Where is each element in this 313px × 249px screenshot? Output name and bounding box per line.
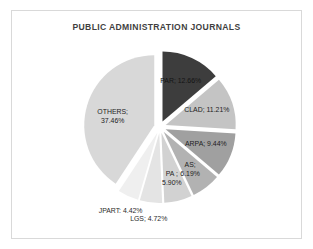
chart-figure: PUBLIC ADMINISTRATION JOURNALS PAR; 12.6… [0, 0, 313, 249]
pie-slices-graphic [12, 11, 303, 240]
pie-chart: PAR; 12.66% CLAD; 11.21% ARPA; 9.44% AS;… [12, 11, 303, 240]
chart-plot-frame: PUBLIC ADMINISTRATION JOURNALS PAR; 12.6… [11, 10, 302, 239]
